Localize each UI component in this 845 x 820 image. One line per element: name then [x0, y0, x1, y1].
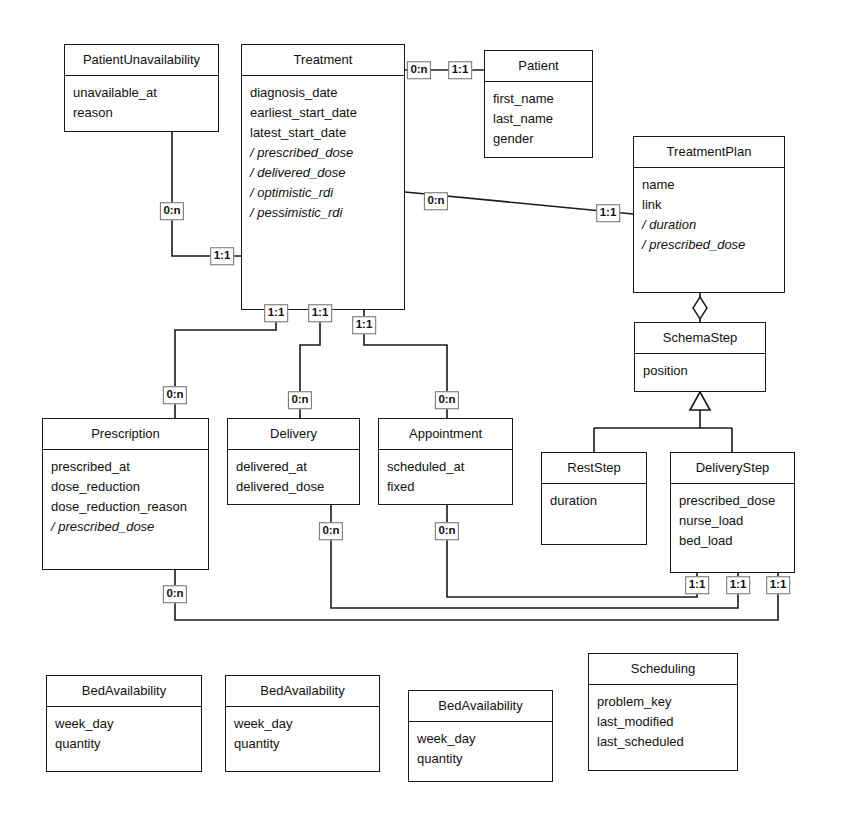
- uml-class-patient-unavailability[interactable]: PatientUnavailabilityunavailable_atreaso…: [64, 44, 219, 132]
- class-attributes-delivery-step: prescribed_dosenurse_loadbed_load: [671, 484, 794, 558]
- class-attributes-bed-availability-1: week_dayquantity: [47, 707, 201, 761]
- class-name-treatment-plan: TreatmentPlan: [634, 137, 784, 168]
- uml-class-bed-availability-2[interactable]: BedAvailabilityweek_dayquantity: [225, 675, 380, 772]
- uml-class-bed-availability-1[interactable]: BedAvailabilityweek_dayquantity: [46, 675, 202, 772]
- multiplicity-m-patient-11: 1:1: [448, 61, 472, 79]
- class-attribute: quantity: [234, 734, 379, 754]
- class-attribute: delivered_at: [236, 457, 359, 477]
- uml-class-patient[interactable]: Patientfirst_namelast_namegender: [484, 50, 593, 158]
- multiplicity-m-plan-11: 1:1: [596, 204, 620, 222]
- class-name-treatment: Treatment: [242, 45, 404, 76]
- class-attributes-treatment-plan: namelink/ duration/ prescribed_dose: [634, 168, 784, 262]
- class-name-bed-availability-3: BedAvailability: [409, 691, 552, 722]
- multiplicity-m-presc-11: 1:1: [264, 304, 288, 322]
- class-attribute: / optimistic_rdi: [250, 183, 404, 203]
- class-attribute: week_day: [234, 714, 379, 734]
- class-attribute: / prescribed_dose: [51, 517, 208, 537]
- uml-class-appointment[interactable]: Appointmentscheduled_atfixed: [378, 418, 513, 505]
- class-attributes-bed-availability-3: week_dayquantity: [409, 722, 552, 776]
- class-attribute: prescribed_at: [51, 457, 208, 477]
- line-treatment-patientunavailability: [172, 132, 241, 256]
- class-name-patient: Patient: [485, 51, 592, 82]
- multiplicity-m-ds-11-b: 1:1: [726, 576, 750, 594]
- class-attribute: earliest_start_date: [250, 103, 404, 123]
- class-attributes-bed-availability-2: week_dayquantity: [226, 707, 379, 761]
- class-attribute: / prescribed_dose: [250, 143, 404, 163]
- class-attribute: / duration: [642, 215, 784, 235]
- class-attribute: week_day: [417, 729, 552, 749]
- class-attribute: / prescribed_dose: [642, 235, 784, 255]
- multiplicity-m-presc-bot-0n: 0:n: [163, 585, 187, 603]
- line-schemastep-subclasses: [594, 410, 732, 452]
- class-attribute: fixed: [387, 477, 512, 497]
- class-name-bed-availability-1: BedAvailability: [47, 676, 201, 707]
- uml-class-schema-step[interactable]: SchemaStepposition: [634, 322, 766, 392]
- class-attribute: bed_load: [679, 531, 794, 551]
- class-attribute: nurse_load: [679, 511, 794, 531]
- multiplicity-m-patient-0n: 0:n: [407, 61, 431, 79]
- class-attributes-prescription: prescribed_atdose_reductiondose_reductio…: [43, 450, 208, 544]
- class-attribute: diagnosis_date: [250, 83, 404, 103]
- class-attribute: last_name: [493, 109, 592, 129]
- class-name-patient-unavailability: PatientUnavailability: [65, 45, 218, 76]
- class-name-bed-availability-2: BedAvailability: [226, 676, 379, 707]
- multiplicity-m-deliv-0n: 0:n: [288, 391, 312, 409]
- class-attribute: dose_reduction_reason: [51, 497, 208, 517]
- class-attribute: / delivered_dose: [250, 163, 404, 183]
- multiplicity-m-ds-11-a: 1:1: [685, 576, 709, 594]
- class-attributes-rest-step: duration: [542, 484, 646, 518]
- generalization-triangle: [690, 392, 710, 410]
- class-attribute: link: [642, 195, 784, 215]
- multiplicity-m-pu-11: 1:1: [210, 247, 234, 265]
- uml-class-delivery-step[interactable]: DeliveryStepprescribed_dosenurse_loadbed…: [670, 452, 795, 573]
- class-attributes-scheduling: problem_keylast_modifiedlast_scheduled: [589, 685, 737, 759]
- class-attribute: delivered_dose: [236, 477, 359, 497]
- class-attributes-schema-step: position: [635, 354, 765, 388]
- multiplicity-m-appt-11: 1:1: [352, 316, 376, 334]
- class-attribute: first_name: [493, 89, 592, 109]
- class-attributes-patient: first_namelast_namegender: [485, 82, 592, 156]
- class-attribute: dose_reduction: [51, 477, 208, 497]
- multiplicity-m-plan-0n: 0:n: [424, 192, 448, 210]
- class-name-rest-step: RestStep: [542, 453, 646, 484]
- class-attributes-delivery: delivered_atdelivered_dose: [228, 450, 359, 504]
- class-attribute: quantity: [55, 734, 201, 754]
- class-name-appointment: Appointment: [379, 419, 512, 450]
- class-attribute: duration: [550, 491, 646, 511]
- class-attributes-appointment: scheduled_atfixed: [379, 450, 512, 504]
- class-attribute: latest_start_date: [250, 123, 404, 143]
- uml-class-delivery[interactable]: Deliverydelivered_atdelivered_dose: [227, 418, 360, 505]
- class-attribute: last_modified: [597, 712, 737, 732]
- class-attribute: prescribed_dose: [679, 491, 794, 511]
- uml-diagram-canvas: PatientUnavailabilityunavailable_atreaso…: [0, 0, 845, 820]
- class-attribute: last_scheduled: [597, 732, 737, 752]
- class-attribute: / pessimistic_rdi: [250, 203, 404, 223]
- class-attribute: week_day: [55, 714, 201, 734]
- class-attributes-treatment: diagnosis_dateearliest_start_datelatest_…: [242, 76, 404, 230]
- line-treatment-prescription: [175, 310, 276, 418]
- class-name-delivery-step: DeliveryStep: [671, 453, 794, 484]
- uml-class-scheduling[interactable]: Schedulingproblem_keylast_modifiedlast_s…: [588, 653, 738, 771]
- class-attribute: position: [643, 361, 765, 381]
- class-attribute: scheduled_at: [387, 457, 512, 477]
- multiplicity-m-pu-0n: 0:n: [160, 202, 184, 220]
- class-attribute: quantity: [417, 749, 552, 769]
- class-attribute: name: [642, 175, 784, 195]
- multiplicity-m-presc-0n: 0:n: [163, 386, 187, 404]
- multiplicity-m-appt-0n: 0:n: [435, 391, 459, 409]
- class-name-delivery: Delivery: [228, 419, 359, 450]
- uml-class-prescription[interactable]: Prescriptionprescribed_atdose_reductiond…: [42, 418, 209, 570]
- class-attribute: unavailable_at: [73, 83, 218, 103]
- class-name-scheduling: Scheduling: [589, 654, 737, 685]
- uml-class-treatment[interactable]: Treatmentdiagnosis_dateearliest_start_da…: [241, 44, 405, 310]
- class-attribute: problem_key: [597, 692, 737, 712]
- uml-class-bed-availability-3[interactable]: BedAvailabilityweek_dayquantity: [408, 690, 553, 782]
- class-attribute: gender: [493, 129, 592, 149]
- class-attributes-patient-unavailability: unavailable_atreason: [65, 76, 218, 130]
- multiplicity-m-ds-11-c: 1:1: [766, 576, 790, 594]
- uml-class-treatment-plan[interactable]: TreatmentPlannamelink/ duration/ prescri…: [633, 136, 785, 293]
- uml-class-rest-step[interactable]: RestStepduration: [541, 452, 647, 545]
- aggregation-diamond: [693, 297, 707, 319]
- multiplicity-m-appt-bot-0n: 0:n: [435, 522, 459, 540]
- class-attribute: reason: [73, 103, 218, 123]
